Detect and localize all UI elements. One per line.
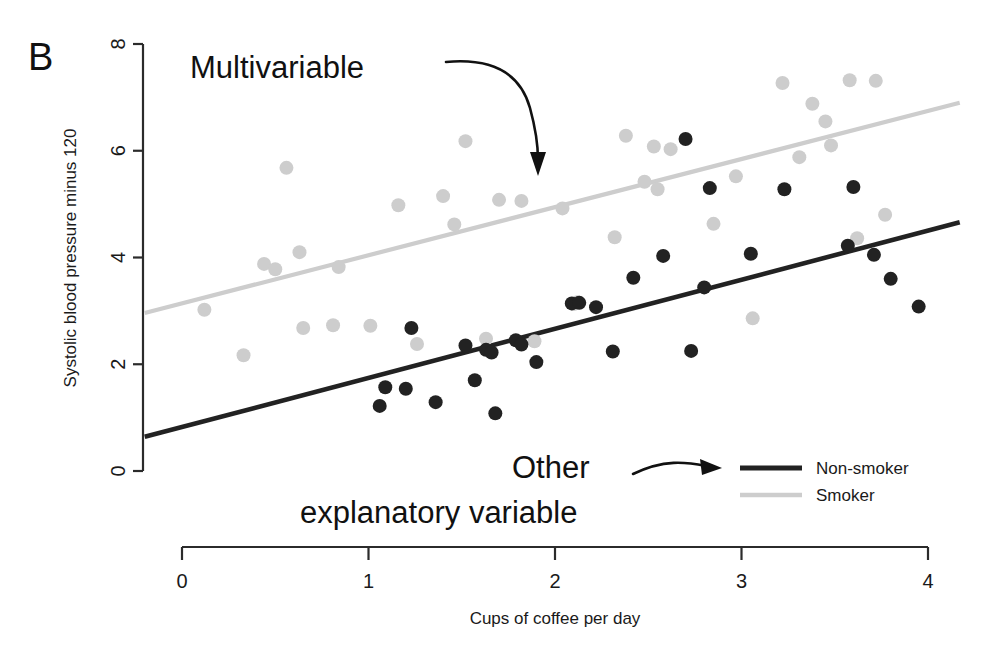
other-annotation-text-line2: explanatory variable bbox=[300, 495, 577, 530]
data-point bbox=[237, 348, 251, 362]
data-point bbox=[529, 355, 543, 369]
data-point bbox=[485, 346, 499, 360]
x-tick-label: 0 bbox=[176, 570, 187, 592]
data-point bbox=[656, 249, 670, 263]
other-arrow-icon bbox=[633, 459, 722, 475]
data-point bbox=[679, 132, 693, 146]
data-point bbox=[746, 311, 760, 325]
data-point bbox=[651, 182, 665, 196]
data-point bbox=[378, 380, 392, 394]
y-tick-label: 4 bbox=[107, 252, 129, 263]
data-point bbox=[492, 193, 506, 207]
data-point bbox=[279, 161, 293, 175]
data-point bbox=[626, 271, 640, 285]
panel-label-b: B bbox=[28, 36, 53, 78]
x-tick-label: 2 bbox=[549, 570, 560, 592]
x-tick-label: 1 bbox=[363, 570, 374, 592]
data-point bbox=[363, 319, 377, 333]
data-point bbox=[638, 175, 652, 189]
data-point bbox=[458, 134, 472, 148]
data-point bbox=[404, 321, 418, 335]
data-point bbox=[884, 272, 898, 286]
data-point bbox=[867, 248, 881, 262]
series-points-non-smoker bbox=[373, 132, 926, 420]
data-point bbox=[664, 142, 678, 156]
data-point bbox=[399, 382, 413, 396]
data-point bbox=[292, 245, 306, 259]
scatter-plot-svg: B 02468 Systolic blood pressure minus 12… bbox=[0, 0, 1001, 663]
x-axis: 01234 Cups of coffee per day bbox=[176, 547, 933, 628]
data-point bbox=[436, 189, 450, 203]
figure-panel-b: B 02468 Systolic blood pressure minus 12… bbox=[0, 0, 1001, 663]
fit-line-non-smoker bbox=[145, 222, 960, 437]
data-point bbox=[332, 260, 346, 274]
data-point bbox=[707, 217, 721, 231]
data-point bbox=[197, 303, 211, 317]
data-point bbox=[792, 150, 806, 164]
data-point bbox=[458, 339, 472, 353]
data-point bbox=[846, 180, 860, 194]
data-point bbox=[619, 129, 633, 143]
data-point bbox=[589, 300, 603, 314]
other-annotation-text-line1: Other bbox=[512, 450, 590, 485]
data-point bbox=[572, 296, 586, 310]
data-point bbox=[729, 169, 743, 183]
data-point bbox=[841, 239, 855, 253]
x-tick-label: 4 bbox=[922, 570, 933, 592]
x-axis-ticks: 01234 bbox=[176, 547, 933, 592]
data-point bbox=[777, 182, 791, 196]
data-point bbox=[744, 247, 758, 261]
data-point bbox=[684, 344, 698, 358]
data-point bbox=[514, 338, 528, 352]
x-tick-label: 3 bbox=[736, 570, 747, 592]
data-point bbox=[468, 373, 482, 387]
data-point bbox=[373, 399, 387, 413]
data-point bbox=[606, 344, 620, 358]
data-point bbox=[703, 181, 717, 195]
data-point bbox=[805, 97, 819, 111]
y-tick-label: 0 bbox=[107, 465, 129, 476]
legend-label-non-smoker: Non-smoker bbox=[816, 459, 909, 478]
data-point bbox=[447, 217, 461, 231]
data-point bbox=[776, 76, 790, 90]
legend: Non-smokerSmoker bbox=[740, 459, 909, 505]
multivariable-annotation-text: Multivariable bbox=[190, 50, 364, 85]
y-axis-title: Systolic blood pressure minus 120 bbox=[61, 129, 80, 388]
data-point bbox=[697, 280, 711, 294]
data-point bbox=[647, 139, 661, 153]
data-point bbox=[514, 194, 528, 208]
data-point bbox=[869, 74, 883, 88]
data-point bbox=[268, 262, 282, 276]
data-point bbox=[878, 208, 892, 222]
data-point bbox=[296, 321, 310, 335]
data-point bbox=[488, 406, 502, 420]
y-tick-label: 2 bbox=[107, 359, 129, 370]
data-point bbox=[429, 395, 443, 409]
y-tick-label: 8 bbox=[107, 38, 129, 49]
data-point bbox=[527, 334, 541, 348]
data-point bbox=[818, 114, 832, 128]
series-points-smoker bbox=[197, 73, 892, 362]
x-axis-title: Cups of coffee per day bbox=[470, 609, 641, 628]
y-axis: 02468 Systolic blood pressure minus 120 bbox=[61, 38, 143, 476]
data-point bbox=[555, 201, 569, 215]
y-axis-ticks: 02468 bbox=[107, 38, 143, 476]
multivariable-arrow-icon bbox=[446, 61, 546, 176]
y-tick-label: 6 bbox=[107, 145, 129, 156]
data-point bbox=[391, 198, 405, 212]
data-point bbox=[912, 300, 926, 314]
data-point bbox=[326, 318, 340, 332]
data-point bbox=[608, 230, 622, 244]
data-point bbox=[410, 337, 424, 351]
legend-label-smoker: Smoker bbox=[816, 486, 875, 505]
fit-line-smoker bbox=[145, 103, 960, 313]
data-point bbox=[824, 138, 838, 152]
data-point bbox=[843, 73, 857, 87]
